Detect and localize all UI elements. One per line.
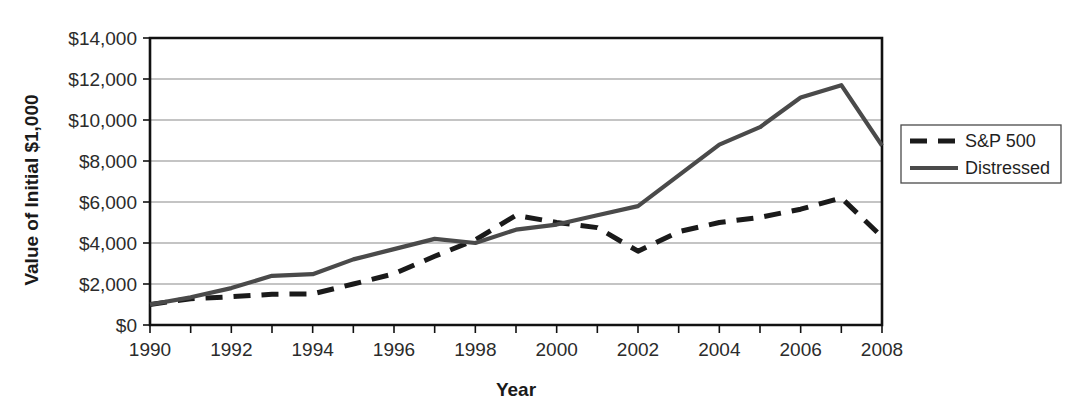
x-axis-tick-label: 2002 bbox=[617, 339, 659, 360]
x-axis-tick-label: 1994 bbox=[292, 339, 335, 360]
y-axis-title: Value of Initial $1,000 bbox=[21, 94, 42, 285]
legend-label: S&P 500 bbox=[965, 131, 1036, 151]
y-axis-tick-label: $4,000 bbox=[79, 233, 137, 254]
y-axis-tick-label: $12,000 bbox=[68, 69, 137, 90]
x-axis-tick-label: 2004 bbox=[698, 339, 741, 360]
y-axis-tick-label: $10,000 bbox=[68, 110, 137, 131]
x-axis-tick-label: 2008 bbox=[861, 339, 903, 360]
x-axis-tick-label: 2000 bbox=[536, 339, 578, 360]
chart-container: $0$2,000$4,000$6,000$8,000$10,000$12,000… bbox=[0, 0, 1067, 410]
y-axis-tick-label: $14,000 bbox=[68, 28, 137, 49]
x-axis-tick-label: 1990 bbox=[129, 339, 171, 360]
y-axis-tick-label: $8,000 bbox=[79, 151, 137, 172]
x-axis-tick-label: 1998 bbox=[454, 339, 496, 360]
y-axis-tick-label: $2,000 bbox=[79, 274, 137, 295]
legend-label: Distressed bbox=[965, 158, 1050, 178]
y-axis-tick-label: $0 bbox=[116, 315, 137, 336]
x-axis-title: Year bbox=[496, 379, 537, 400]
chart-legend: S&P 500Distressed bbox=[901, 125, 1061, 183]
line-chart: $0$2,000$4,000$6,000$8,000$10,000$12,000… bbox=[0, 0, 1067, 410]
x-axis-tick-label: 1992 bbox=[210, 339, 252, 360]
x-axis-tick-label: 2006 bbox=[780, 339, 822, 360]
x-axis-tick-label: 1996 bbox=[373, 339, 415, 360]
y-axis-tick-label: $6,000 bbox=[79, 192, 137, 213]
